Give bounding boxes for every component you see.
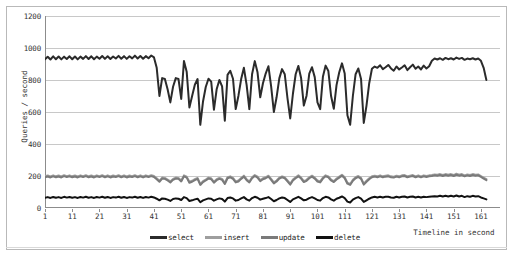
legend-item-update[interactable]: update [261, 233, 305, 242]
x-tick-1: 1 [43, 212, 48, 221]
x-tick-21: 21 [95, 212, 104, 221]
x-axis-title: Timeline in second [406, 228, 502, 237]
legend-swatch-delete-icon [316, 236, 333, 239]
y-tick-400: 400 [1, 140, 41, 149]
x-tick-51: 51 [177, 212, 186, 221]
series-line-delete [45, 196, 486, 203]
legend-swatch-insert-icon [205, 236, 222, 239]
x-tick-161: 161 [474, 212, 488, 221]
chart-legend: selectinsertupdatedelete [150, 230, 360, 244]
legend-item-insert[interactable]: insert [205, 233, 249, 242]
series-line-select [45, 56, 486, 125]
y-axis-tick-labels: 020040060080010001200 [0, 16, 41, 208]
x-tick-41: 41 [149, 212, 158, 221]
x-tick-71: 71 [231, 212, 240, 221]
x-tick-111: 111 [338, 212, 352, 221]
y-tick-1000: 1000 [1, 44, 41, 53]
series-svg [45, 16, 500, 208]
legend-label-update: update [279, 233, 305, 242]
y-tick-1200: 1200 [1, 12, 41, 21]
chart-figure: Queries / second 020040060080010001200 1… [0, 0, 515, 260]
x-tick-11: 11 [68, 212, 77, 221]
x-tick-31: 31 [122, 212, 131, 221]
legend-swatch-select-icon [150, 236, 167, 239]
y-tick-800: 800 [1, 76, 41, 85]
x-axis-tick-labels: 1112131415161718191101111121131141151161 [45, 209, 500, 225]
legend-label-insert: insert [223, 233, 249, 242]
x-tick-81: 81 [258, 212, 267, 221]
legend-divider [6, 247, 507, 248]
y-tick-200: 200 [1, 172, 41, 181]
legend-label-select: select [168, 233, 194, 242]
plot-wrapper [45, 16, 500, 208]
legend-swatch-update-icon [261, 236, 278, 239]
x-tick-131: 131 [392, 212, 406, 221]
legend-label-delete: delete [334, 233, 360, 242]
x-tick-61: 61 [204, 212, 213, 221]
legend-item-delete[interactable]: delete [316, 233, 360, 242]
y-tick-600: 600 [1, 108, 41, 117]
x-tick-101: 101 [311, 212, 325, 221]
x-tick-91: 91 [286, 212, 295, 221]
x-tick-141: 141 [420, 212, 434, 221]
x-tick-121: 121 [365, 212, 379, 221]
x-tick-151: 151 [447, 212, 461, 221]
legend-item-select[interactable]: select [150, 233, 194, 242]
y-tick-0: 0 [1, 204, 41, 213]
